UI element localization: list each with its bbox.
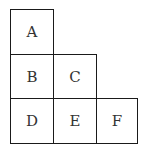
cell-d: D <box>10 98 54 144</box>
cell-label: B <box>26 68 37 86</box>
cell-label: E <box>70 112 81 130</box>
cell-label: A <box>27 23 38 41</box>
cell-label: C <box>69 68 80 86</box>
cell-label: D <box>26 112 38 130</box>
cell-label: F <box>112 112 122 130</box>
cell-f: F <box>96 98 138 144</box>
cell-a: A <box>10 9 54 55</box>
cell-c: C <box>53 54 97 99</box>
cell-b: B <box>10 54 54 99</box>
cell-e: E <box>53 98 97 144</box>
